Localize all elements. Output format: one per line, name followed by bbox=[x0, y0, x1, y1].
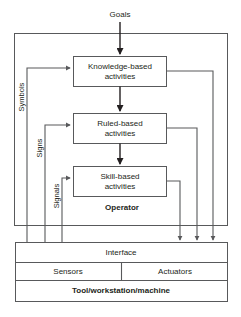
signals-feedback-path bbox=[62, 178, 70, 242]
symbols-label: Symbols bbox=[17, 82, 26, 111]
goals-label: Goals bbox=[110, 10, 131, 19]
knowledge-output-path bbox=[167, 71, 214, 240]
symbols-feedback-path bbox=[27, 68, 70, 242]
signals-label: Signals bbox=[52, 183, 61, 208]
srk-model-diagram: Goals Knowledge-based activities Ruled-b… bbox=[0, 0, 241, 317]
tool-workstation-machine-label: Tool/workstation/machine bbox=[72, 286, 171, 295]
interface-label: Interface bbox=[105, 248, 137, 257]
skill-based-activities-label-line1: Skill-based bbox=[100, 172, 139, 181]
operator-label: Operator bbox=[105, 203, 139, 212]
skill-based-activities-label-line2: activities bbox=[105, 182, 136, 191]
ruled-output-path bbox=[167, 128, 198, 240]
ruled-based-activities-label-line2: activities bbox=[105, 129, 136, 138]
actuators-label: Actuators bbox=[158, 267, 192, 276]
knowledge-based-activities-label-line2: activities bbox=[105, 72, 136, 81]
skill-output-path bbox=[167, 181, 181, 240]
signs-label: Signs bbox=[35, 138, 44, 157]
ruled-based-activities-label-line1: Ruled-based bbox=[97, 119, 142, 128]
knowledge-based-activities-label-line1: Knowledge-based bbox=[88, 62, 152, 71]
sensors-label: Sensors bbox=[53, 267, 82, 276]
diagram-canvas: Goals Knowledge-based activities Ruled-b… bbox=[0, 0, 241, 317]
signs-feedback-path bbox=[45, 125, 70, 242]
